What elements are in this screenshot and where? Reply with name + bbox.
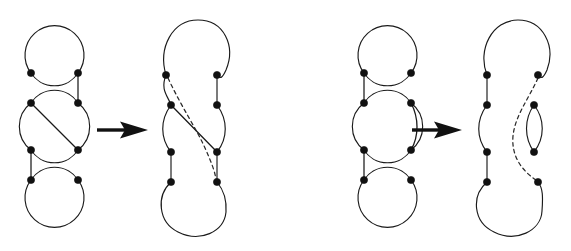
panel-right-after (476, 20, 549, 236)
chord-diagram-figure (0, 0, 571, 251)
node-dot (483, 101, 490, 108)
top-lobe-outline (484, 20, 550, 78)
top-circle-outline (358, 26, 417, 86)
panel-right-before (352, 26, 422, 228)
node-dot (530, 101, 537, 108)
bottom-circle-outline (25, 167, 84, 227)
node-dot (407, 69, 414, 76)
node-dot (74, 69, 81, 76)
node-dot (483, 71, 490, 78)
node-dot (213, 71, 220, 78)
left-outer-strand-lower (163, 105, 171, 152)
node-dot (162, 71, 169, 78)
top-lobe-outline (164, 20, 230, 78)
node-dot (360, 69, 367, 76)
node-dot (167, 178, 174, 185)
node-dot (534, 71, 541, 78)
left-outer-strand-upper (164, 75, 171, 105)
node-dot (360, 99, 367, 106)
node-dot (360, 146, 367, 153)
right-strand-bulge (217, 105, 225, 152)
node-dot (27, 99, 34, 106)
bottom-lobe-outline (476, 182, 542, 236)
panel-left-before (19, 26, 89, 228)
node-dot (213, 148, 220, 155)
transform-arrow-right (412, 122, 462, 139)
node-dot (483, 148, 490, 155)
node-dot (74, 146, 81, 153)
figure-root (0, 0, 571, 251)
node-dot (534, 178, 541, 185)
transform-arrow-left (97, 122, 148, 139)
node-dot (27, 69, 34, 76)
node-dot (27, 146, 34, 153)
node-dot (530, 148, 537, 155)
panel-left-after (161, 20, 229, 236)
node-dot (213, 178, 220, 185)
node-dot (27, 176, 34, 183)
dashed-strand (513, 78, 538, 180)
node-dot (167, 148, 174, 155)
node-dot (167, 101, 174, 108)
diagonal-chord (31, 103, 78, 150)
bottom-lobe-outline (161, 182, 226, 236)
node-dot (407, 176, 414, 183)
arc-chord (411, 103, 417, 150)
lens-left-arc (527, 105, 535, 152)
solid-crossing-strand (171, 105, 217, 152)
dashed-strand (168, 78, 216, 182)
left-strand-bulge (479, 105, 487, 152)
node-dot (360, 176, 367, 183)
node-dot (74, 176, 81, 183)
lens-right-arc (534, 105, 542, 152)
node-dot (74, 99, 81, 106)
top-circle-outline (25, 26, 84, 86)
node-dot (213, 101, 220, 108)
node-dot (483, 178, 490, 185)
bottom-circle-outline (358, 167, 417, 227)
node-dot (407, 99, 414, 106)
node-dot (407, 146, 414, 153)
